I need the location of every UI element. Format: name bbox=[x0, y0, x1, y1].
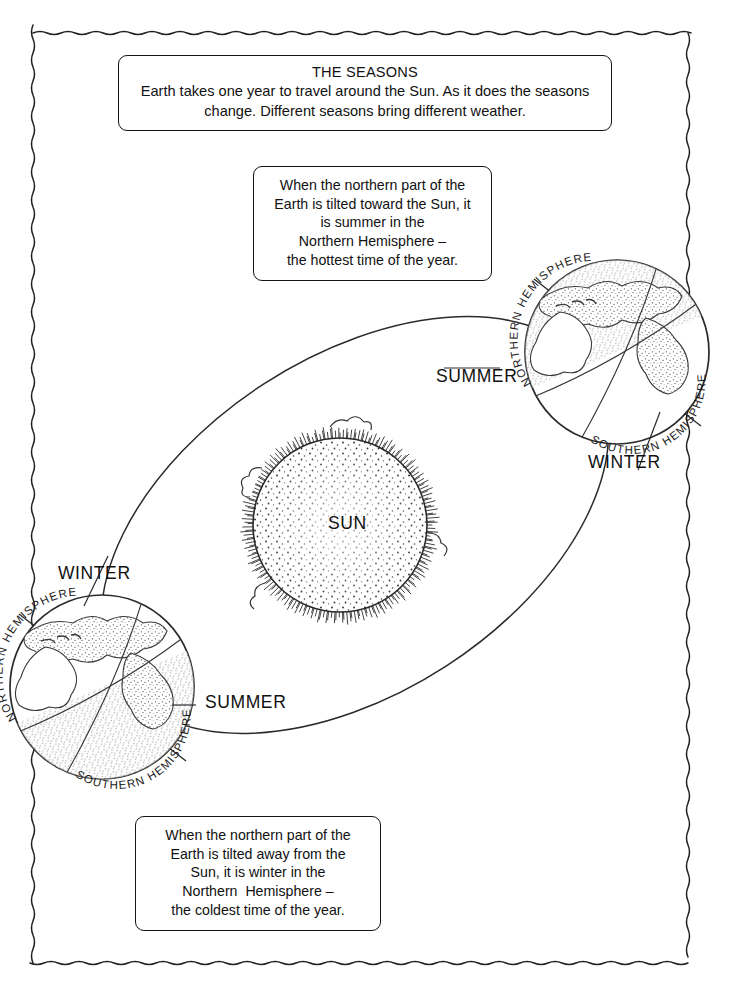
season-label-summer-right: SUMMER bbox=[436, 366, 517, 387]
season-label-winter-left: WINTER bbox=[58, 563, 131, 584]
winter-caption-line-5: the coldest time of the year. bbox=[144, 901, 372, 920]
summer-caption-line-2: Earth is tilted toward the Sun, it bbox=[262, 195, 483, 214]
summer-caption-line-3: is summer in the bbox=[262, 213, 483, 232]
winter-caption-box: When the northern part of the Earth is t… bbox=[135, 816, 381, 931]
season-label-summer-left: SUMMER bbox=[205, 692, 286, 713]
worksheet-page: NORTHERN HEMISPHERE SOUTHERN HEMISPHERE bbox=[0, 0, 732, 995]
title-line-1: Earth takes one year to travel around th… bbox=[129, 82, 601, 101]
sun-prominence-bottomleft bbox=[250, 583, 265, 609]
globe-right: NORTHERN HEMISPHERE SOUTHERN HEMISPHERE bbox=[496, 231, 709, 456]
globe-left: NORTHERN HEMISPHERE SOUTHERN HEMISPHERE bbox=[0, 586, 223, 808]
title-heading: THE SEASONS bbox=[129, 63, 601, 82]
sun-prominence-top bbox=[330, 417, 371, 430]
summer-caption-box: When the northern part of the Earth is t… bbox=[253, 166, 492, 281]
title-line-2: change. Different seasons bring differen… bbox=[129, 102, 601, 121]
title-box: THE SEASONS Earth takes one year to trav… bbox=[118, 55, 612, 131]
summer-caption-line-4: Northern Hemisphere – bbox=[262, 232, 483, 251]
winter-caption-line-2: Earth is tilted away from the bbox=[144, 845, 372, 864]
summer-caption-line-1: When the northern part of the bbox=[262, 176, 483, 195]
season-label-winter-right: WINTER bbox=[588, 452, 661, 473]
winter-caption-line-1: When the northern part of the bbox=[144, 826, 372, 845]
summer-caption-line-5: the hottest time of the year. bbox=[262, 251, 483, 270]
winter-caption-line-4: Northern Hemisphere – bbox=[144, 882, 372, 901]
winter-caption-line-3: Sun, it is winter in the bbox=[144, 863, 372, 882]
sun-label: SUN bbox=[328, 513, 367, 534]
